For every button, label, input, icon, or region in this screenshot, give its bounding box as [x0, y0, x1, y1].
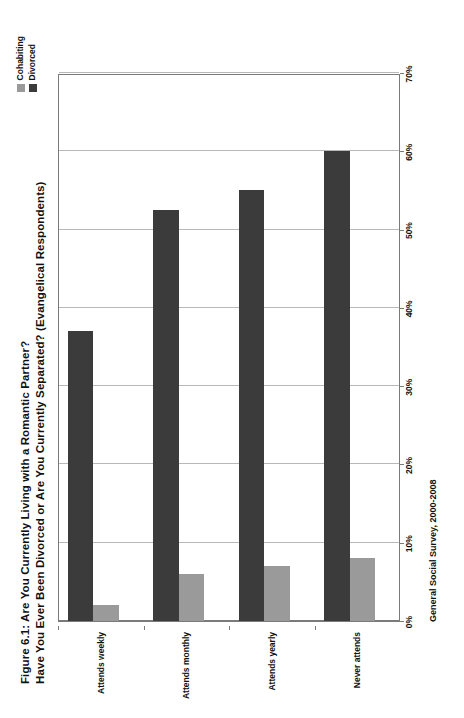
chart-figure: Figure 6.1: Are You Currently Living wit…	[0, 0, 464, 718]
category-label: Attends yearly	[267, 632, 277, 691]
category-tick-mark	[315, 626, 316, 630]
bar-group	[59, 75, 145, 621]
plot-area	[58, 74, 400, 622]
bar-cohabiting	[93, 605, 119, 621]
value-tick-label: 0%	[404, 616, 414, 628]
category-tick-mark	[58, 626, 59, 630]
bar-divorced	[68, 331, 94, 621]
value-tick-label: 60%	[404, 144, 414, 161]
category-label: Attends monthly	[181, 632, 191, 699]
bar-cohabiting	[350, 558, 376, 621]
value-tick-label: 70%	[404, 65, 414, 82]
category-tick-mark	[229, 626, 230, 630]
bar-group	[316, 75, 402, 621]
chart-title-line-2: Have You Ever Been Divorced or Are You C…	[33, 44, 48, 684]
legend-swatch-icon	[29, 84, 37, 92]
bar-cohabiting	[179, 574, 205, 621]
rotated-figure-wrapper: Figure 6.1: Are You Currently Living wit…	[0, 0, 464, 718]
bar-cohabiting	[264, 566, 290, 621]
bar-divorced	[153, 210, 179, 621]
bar-divorced	[324, 151, 350, 621]
category-tick-mark	[144, 626, 145, 630]
value-tick-label: 20%	[404, 457, 414, 474]
legend-item-cohabiting[interactable]: Cohabiting	[16, 36, 25, 92]
category-label: Never attends	[352, 632, 362, 688]
bar-group	[145, 75, 231, 621]
value-tick-label: 10%	[404, 535, 414, 552]
bar-group	[230, 75, 316, 621]
legend-swatch-icon	[17, 84, 25, 92]
value-tick-label: 40%	[404, 300, 414, 317]
value-tick-label: 50%	[404, 222, 414, 239]
value-axis: 0%10%20%30%40%50%60%70%	[400, 74, 420, 622]
chart-title-block: Figure 6.1: Are You Currently Living wit…	[18, 44, 48, 684]
legend-item-divorced[interactable]: Divorced	[28, 44, 37, 92]
category-label: Attends weekly	[96, 632, 106, 694]
bar-divorced	[239, 190, 265, 621]
source-note: General Social Survey, 2000-2008	[428, 480, 438, 622]
chart-legend: Cohabiting Divorced	[16, 36, 37, 92]
chart-title-line-1: Figure 6.1: Are You Currently Living wit…	[18, 44, 33, 684]
gridline	[59, 72, 399, 73]
legend-label-cohabiting: Cohabiting	[16, 36, 25, 80]
value-tick-label: 30%	[404, 379, 414, 396]
legend-label-divorced: Divorced	[28, 44, 37, 80]
category-axis: Never attendsAttends yearlyAttends month…	[58, 626, 400, 718]
